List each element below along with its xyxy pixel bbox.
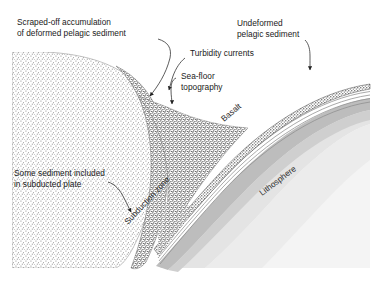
geology-cross-section-figure: Scraped-off accumulation of deformed pel…	[0, 0, 382, 282]
cross-section-diagram: Scraped-off accumulation of deformed pel…	[0, 0, 382, 282]
label-some-sediment-line1: Some sediment included	[14, 168, 105, 178]
label-sea-floor-line2: topography	[181, 82, 223, 92]
leader-sea-floor	[171, 78, 176, 104]
label-some-sediment-line2: in subducted plate	[14, 179, 82, 189]
label-turbidity-currents: Turbidity currents	[190, 48, 254, 58]
label-basalt: Basalt	[219, 101, 244, 124]
label-undeformed-line2: pelagic sediment	[237, 29, 300, 39]
label-scraped-off-line2: of deformed pelagic sediment	[17, 28, 127, 38]
label-sea-floor-line1: Sea-floor	[181, 71, 215, 81]
label-undeformed-line1: Undeformed	[237, 18, 283, 28]
leader-scraped-off	[150, 39, 171, 96]
label-scraped-off-line1: Scraped-off accumulation	[17, 17, 111, 27]
leader-undeformed	[305, 40, 310, 70]
